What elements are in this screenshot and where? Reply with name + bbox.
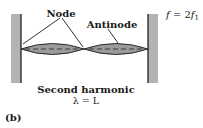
node-label: Node xyxy=(46,8,75,19)
node-leader-middle xyxy=(62,18,83,47)
antinode-label: Antinode xyxy=(86,19,138,30)
harmonic-title: Second harmonic xyxy=(37,84,135,95)
antinode-leader xyxy=(108,29,118,43)
left-wall xyxy=(11,14,21,83)
node-leader-left xyxy=(23,18,60,44)
panel-label: (b) xyxy=(5,112,21,123)
standing-wave-diagram: Node Antinode f = 2f1 Second harmonic λ … xyxy=(0,0,203,128)
frequency-label: f = 2f1 xyxy=(165,9,199,22)
wavelength-label: λ = L xyxy=(73,95,100,106)
right-wall xyxy=(148,14,158,83)
